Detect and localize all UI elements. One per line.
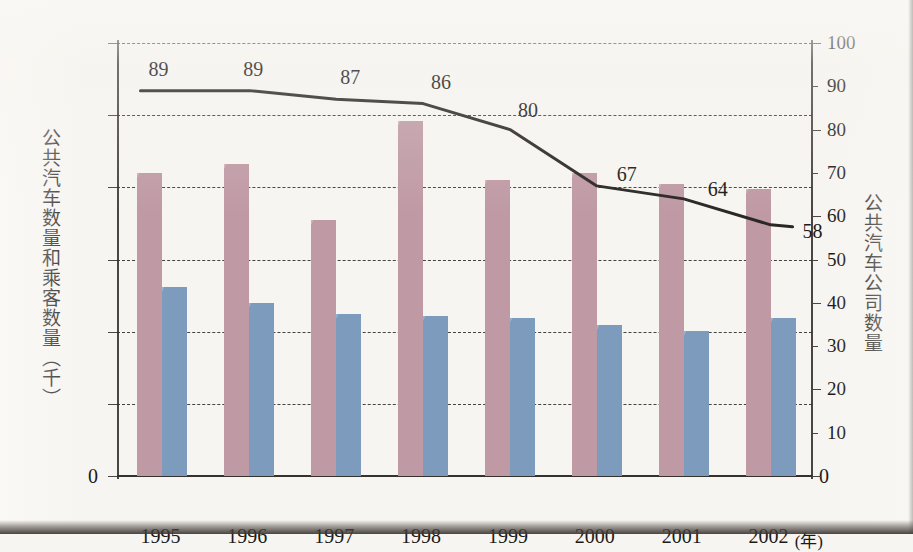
right-axis-tick [812,389,821,390]
right-axis-tick-label: 70 [827,162,846,184]
right-axis-tick [812,476,821,477]
left-axis-tick [108,476,117,477]
line-point-label-2002: 58 [803,219,823,242]
right-axis-tick [812,346,818,347]
left-axis-label: 公共汽车数量和乘客数量（千） [34,128,60,408]
right-axis-label: 公共汽车公司数量 [856,193,882,353]
right-axis-tick-label: 10 [827,422,846,444]
right-axis-tick [812,86,818,87]
right-axis-tick-label: 50 [827,249,846,271]
line-point-label-2000: 67 [617,162,637,185]
line-point-label-1996: 89 [243,57,263,80]
right-axis-tick-label: 30 [827,335,846,357]
right-axis-tick-label: 90 [827,75,846,97]
right-axis-tick-label: 80 [827,119,846,141]
line-point-label-1995: 89 [148,57,168,80]
line-point-label-1999: 80 [518,98,538,121]
left-axis-tick [108,43,117,44]
right-axis-tick-label: 60 [827,205,846,227]
left-axis-tick [108,115,117,116]
line-series-bus-companies [117,43,812,476]
right-axis-tick [812,173,818,174]
right-axis-tick-label: 40 [827,292,846,314]
right-axis-tick [812,303,821,304]
line-point-label-1998: 86 [431,70,451,93]
right-axis-tick [812,43,821,44]
right-axis-tick [812,260,818,261]
left-axis-tick [108,404,117,405]
right-axis-tick [812,433,818,434]
right-axis-tick-label: 100 [827,32,856,54]
left-axis-tick [108,187,117,188]
right-axis-tick [812,130,821,131]
left-axis-tick [108,260,117,261]
right-axis-tick-label: 20 [827,378,846,400]
line-point-label-2001: 64 [708,177,728,200]
left-axis-tick [108,332,117,333]
page-bottom-edge [0,520,913,534]
page-right-edge [908,0,913,534]
left-axis-tick-label-0: 0 [88,465,98,488]
line-point-label-1997: 87 [340,66,360,89]
plot-area: 2000400060008000100001200010203040506070… [117,43,812,476]
right-axis-tick [812,216,821,217]
